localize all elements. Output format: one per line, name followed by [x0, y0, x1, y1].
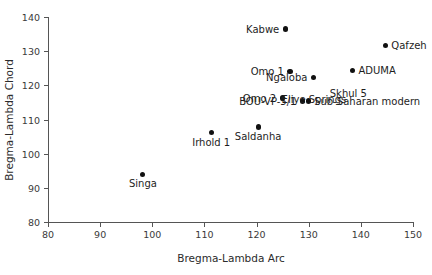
x-axis-tick-label: 90	[94, 229, 106, 240]
y-axis-tick-label: 90	[28, 182, 40, 193]
x-axis-tick	[100, 223, 101, 227]
data-point-label: Kabwe	[246, 23, 279, 34]
y-axis-tick-label: 110	[22, 114, 40, 125]
data-point-marker	[256, 124, 261, 129]
y-axis-tick-label: 100	[22, 148, 40, 159]
data-point-label: Irhold 1	[192, 137, 230, 148]
y-axis-title: Bregma-Lambda Chord	[2, 17, 16, 223]
y-axis-tick-label: 80	[28, 217, 40, 228]
y-axis-tick-label: 120	[22, 80, 40, 91]
data-point-marker	[283, 26, 288, 31]
scatter-chart-figure: Bregma-Lambda Chord 80901001101201301401…	[0, 0, 432, 275]
x-axis-tick-label: 120	[247, 229, 265, 240]
y-axis-tick	[44, 222, 48, 223]
data-point-label: Ngaloba	[266, 72, 307, 83]
x-axis-tick-label: 80	[42, 229, 54, 240]
y-axis-tick-label: 130	[22, 46, 40, 57]
x-axis-tick	[257, 223, 258, 227]
x-axis-tick-label: 100	[143, 229, 161, 240]
x-axis-tick	[361, 223, 362, 227]
x-axis-tick	[309, 223, 310, 227]
plot-area	[48, 17, 413, 222]
x-axis-tick-label: 110	[195, 229, 213, 240]
data-point-label: Qafzeh	[391, 40, 426, 51]
x-axis-title: Bregma-Lambda Arc	[48, 252, 414, 264]
y-axis-tick-label: 140	[22, 12, 40, 23]
data-point-marker	[311, 75, 316, 80]
data-point-marker	[383, 43, 388, 48]
x-axis-tick	[152, 223, 153, 227]
x-axis-tick-label: 150	[404, 229, 422, 240]
x-axis-tick	[413, 223, 414, 227]
x-axis-tick	[48, 223, 49, 227]
annotation-label: Eliye Springs	[282, 94, 347, 105]
x-axis-line	[48, 222, 414, 223]
y-axis-title-text: Bregma-Lambda Chord	[3, 59, 15, 181]
data-point-label: Singa	[129, 178, 157, 189]
data-point-label: Saldanha	[235, 131, 282, 142]
data-point-marker	[350, 68, 355, 73]
x-axis-tick	[204, 223, 205, 227]
data-point-label: ADUMA	[359, 65, 396, 76]
x-axis-tick-label: 140	[352, 229, 370, 240]
x-axis-tick-label: 130	[300, 229, 318, 240]
